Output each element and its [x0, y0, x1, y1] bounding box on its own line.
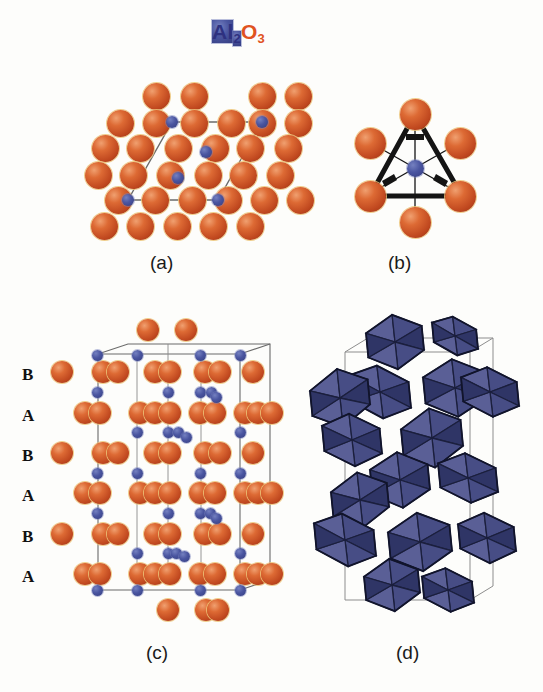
- figure-canvas: Al2O3 (a) (b) (c) (d) B A B A B A: [0, 0, 543, 692]
- oxygen-atom: [91, 213, 118, 240]
- figure-title: Al2O3: [0, 20, 510, 44]
- title-subscript-2: 2: [233, 31, 240, 46]
- aluminum-atom: [195, 468, 206, 479]
- oxygen-atom: [209, 523, 231, 545]
- oxygen-atom: [445, 181, 476, 212]
- aluminum-atom: [122, 194, 134, 206]
- aluminum-atom: [163, 427, 174, 438]
- oxygen-atom: [137, 319, 159, 341]
- aluminum-atom: [195, 350, 206, 361]
- oxygen-atom: [207, 599, 229, 621]
- octahedron: [461, 367, 519, 417]
- oxygen-atom: [85, 162, 112, 189]
- oxygen-atom: [157, 599, 179, 621]
- oxygen-atom: [200, 213, 227, 240]
- aluminum-atom: [235, 585, 246, 596]
- aluminum-atom: [212, 194, 224, 206]
- stacking-label-b2: B: [22, 446, 33, 466]
- caption-panel-d: (d): [396, 642, 419, 664]
- aluminum-atom: [132, 350, 143, 361]
- octahedron: [388, 513, 452, 571]
- oxygen-atom: [107, 361, 129, 383]
- oxygen-atom: [242, 361, 264, 383]
- aluminum-atom: [235, 350, 246, 361]
- aluminum-atom: [92, 508, 103, 519]
- oxygen-atom: [120, 162, 147, 189]
- oxygen-atom: [107, 523, 129, 545]
- oxygen-atom: [142, 187, 169, 214]
- oxygen-atom: [159, 523, 181, 545]
- oxygen-atom: [159, 442, 181, 464]
- octahedron: [364, 559, 420, 611]
- oxygen-atom: [181, 110, 208, 137]
- oxygen-atom: [159, 563, 181, 585]
- aluminum-atom: [92, 585, 103, 596]
- title-element-al: Al: [212, 20, 233, 43]
- stacking-label-b3: B: [22, 527, 33, 547]
- aluminum-atom: [235, 468, 246, 479]
- oxygen-atom: [355, 181, 386, 212]
- oxygen-atom: [204, 402, 226, 424]
- aluminum-atom: [92, 468, 103, 479]
- octahedron: [432, 317, 478, 356]
- oxygen-atom: [251, 187, 278, 214]
- oxygen-atom: [89, 563, 111, 585]
- title-element-o: O: [241, 20, 258, 43]
- octahedron: [310, 369, 370, 427]
- oxygen-atom: [127, 135, 154, 162]
- oxygen-atom: [204, 482, 226, 504]
- aluminum-atom: [195, 585, 206, 596]
- aluminum-atom: [211, 392, 222, 403]
- octahedron: [331, 472, 389, 527]
- aluminum-atom: [166, 116, 178, 128]
- oxygen-atom: [400, 99, 431, 130]
- aluminum-atom: [235, 548, 246, 559]
- aluminum-atom: [235, 427, 246, 438]
- oxygen-atom: [51, 361, 73, 383]
- octahedron: [458, 513, 516, 563]
- aluminum-atom: [211, 513, 222, 524]
- oxygen-atom: [164, 213, 191, 240]
- aluminum-atom: [92, 387, 103, 398]
- aluminum-atom: [132, 548, 143, 559]
- oxygen-atom: [218, 110, 245, 137]
- oxygen-atom: [209, 361, 231, 383]
- oxygen-atom: [261, 482, 283, 504]
- oxygen-atom: [209, 442, 231, 464]
- oxygen-atom: [92, 135, 119, 162]
- oxygen-atom: [159, 361, 181, 383]
- oxygen-atom: [242, 523, 264, 545]
- aluminum-atom: [132, 585, 143, 596]
- oxygen-atom: [181, 83, 208, 110]
- aluminum-atom: [132, 427, 143, 438]
- oxygen-atom: [159, 482, 181, 504]
- aluminum-atom: [179, 551, 190, 562]
- aluminum-atom: [132, 468, 143, 479]
- oxygen-atom: [204, 563, 226, 585]
- oxygen-atom: [285, 83, 312, 110]
- aluminum-atom: [181, 432, 192, 443]
- oxygen-atom: [175, 319, 197, 341]
- aluminum-atom: [200, 146, 212, 158]
- oxygen-atom: [179, 187, 206, 214]
- oxygen-atom: [445, 128, 476, 159]
- oxygen-atom: [159, 402, 181, 424]
- aluminum-atom: [195, 508, 206, 519]
- panel-d-cell-outline: [345, 338, 493, 600]
- aluminum-atom: [163, 508, 174, 519]
- aluminum-atom: [407, 160, 424, 177]
- octahedron: [366, 315, 424, 369]
- caption-panel-c: (c): [146, 642, 168, 664]
- oxygen-atom: [249, 83, 276, 110]
- oxygen-atom: [89, 402, 111, 424]
- octahedron: [438, 453, 498, 503]
- oxygen-atom: [143, 83, 170, 110]
- octahedron: [349, 366, 411, 419]
- oxygen-atom: [355, 128, 386, 159]
- octahedron: [314, 514, 376, 567]
- aluminum-atom: [92, 350, 103, 361]
- caption-panel-a: (a): [150, 252, 173, 274]
- oxygen-atom: [89, 482, 111, 504]
- aluminum-atom: [256, 116, 268, 128]
- oxygen-atom: [51, 523, 73, 545]
